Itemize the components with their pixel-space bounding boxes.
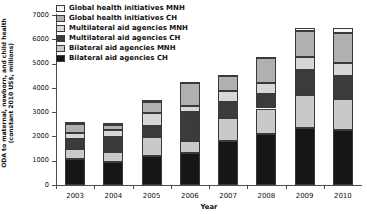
y-axis-title-line-2: (constant 2010 US$, millions) <box>7 0 14 186</box>
legend-label: Global health initiatives CH <box>69 14 177 22</box>
bar-segment[interactable] <box>65 122 85 124</box>
bar-segment[interactable] <box>180 112 200 140</box>
y-tick <box>52 88 56 89</box>
legend-swatch-icon <box>56 35 65 42</box>
bar-segment[interactable] <box>142 100 162 102</box>
x-tick <box>171 185 172 189</box>
bar-segment[interactable] <box>103 137 123 153</box>
x-tick-label: 2007 <box>208 192 248 200</box>
x-tick-label: 2004 <box>93 192 133 200</box>
bar-segment[interactable] <box>218 141 238 185</box>
legend-swatch-icon <box>56 45 65 52</box>
bar-segment[interactable] <box>218 102 238 118</box>
legend-label: Multilateral aid agencies CH <box>69 34 180 42</box>
x-tick-label: 2008 <box>246 192 286 200</box>
bar-segment[interactable] <box>65 124 85 132</box>
y-tick-label: 5000 <box>19 60 49 67</box>
bar-segment[interactable] <box>103 162 123 185</box>
bar-segment[interactable] <box>142 137 162 155</box>
bar-segment[interactable] <box>180 83 200 106</box>
legend-item[interactable]: Global health initiatives MNH <box>56 3 188 13</box>
y-tick <box>52 161 56 162</box>
legend-swatch-icon <box>56 25 65 32</box>
bar-segment[interactable] <box>103 130 123 136</box>
x-tick <box>324 185 325 189</box>
bar-2009[interactable] <box>295 15 315 185</box>
x-tick <box>94 185 95 189</box>
legend-item[interactable]: Global health initiatives CH <box>56 13 188 23</box>
legend-label: Bilateral aid agencies MNH <box>69 44 176 52</box>
bar-segment[interactable] <box>256 57 276 59</box>
bar-segment[interactable] <box>142 113 162 126</box>
legend-label: Multilateral aid agencies MNH <box>69 24 188 32</box>
legend-swatch-icon <box>56 55 65 62</box>
y-tick-label: 4000 <box>19 85 49 92</box>
legend-label: Bilateral aid agencies CH <box>69 54 168 62</box>
bar-segment[interactable] <box>65 133 85 140</box>
y-tick-label: 2000 <box>19 133 49 140</box>
bar-segment[interactable] <box>295 28 315 32</box>
bar-segment[interactable] <box>256 94 276 108</box>
y-tick-label: 6000 <box>19 36 49 43</box>
legend-item[interactable]: Multilateral aid agencies MNH <box>56 23 188 33</box>
bar-segment[interactable] <box>295 128 315 185</box>
y-tick <box>52 136 56 137</box>
x-tick <box>133 185 134 189</box>
bar-segment[interactable] <box>142 156 162 185</box>
bar-segment[interactable] <box>180 82 200 84</box>
y-tick-label: 3000 <box>19 109 49 116</box>
bar-2008[interactable] <box>256 15 276 185</box>
bar-segment[interactable] <box>65 139 85 148</box>
bar-segment[interactable] <box>65 149 85 159</box>
bar-segment[interactable] <box>256 134 276 185</box>
bar-segment[interactable] <box>295 70 315 95</box>
x-tick <box>56 185 57 189</box>
bar-segment[interactable] <box>65 159 85 185</box>
bar-2010[interactable] <box>333 15 353 185</box>
bar-segment[interactable] <box>333 130 353 185</box>
bar-segment[interactable] <box>256 83 276 94</box>
bar-segment[interactable] <box>218 76 238 91</box>
y-tick-label: 0 <box>19 182 49 189</box>
bar-segment[interactable] <box>333 33 353 63</box>
x-tick <box>247 185 248 189</box>
legend-swatch-icon <box>56 15 65 22</box>
bar-segment[interactable] <box>103 123 123 125</box>
bar-segment[interactable] <box>218 118 238 141</box>
legend-item[interactable]: Bilateral aid agencies CH <box>56 53 188 63</box>
bar-segment[interactable] <box>218 75 238 77</box>
legend-swatch-icon <box>56 5 65 12</box>
bar-segment[interactable] <box>295 31 315 57</box>
bar-2007[interactable] <box>218 15 238 185</box>
x-tick-label: 2006 <box>170 192 210 200</box>
y-axis-title-line-1: ODA to maternal, newborn, and child heal… <box>0 0 7 186</box>
bar-segment[interactable] <box>333 76 353 99</box>
bar-segment[interactable] <box>256 109 276 134</box>
y-tick-label: 7000 <box>19 12 49 19</box>
bar-segment[interactable] <box>295 57 315 69</box>
bar-segment[interactable] <box>295 95 315 128</box>
y-tick-label: 1000 <box>19 157 49 164</box>
bar-segment[interactable] <box>142 102 162 113</box>
bar-segment[interactable] <box>180 141 200 153</box>
x-tick <box>286 185 287 189</box>
bar-segment[interactable] <box>180 153 200 185</box>
x-axis-title: Year <box>56 203 362 211</box>
y-tick <box>52 64 56 65</box>
bar-segment[interactable] <box>180 106 200 112</box>
bar-segment[interactable] <box>142 126 162 138</box>
bar-segment[interactable] <box>333 99 353 130</box>
legend-item[interactable]: Bilateral aid agencies MNH <box>56 43 188 53</box>
bar-segment[interactable] <box>103 125 123 131</box>
x-tick <box>209 185 210 189</box>
x-tick-label: 2005 <box>132 192 172 200</box>
legend-label: Global health initiatives MNH <box>69 4 185 12</box>
bar-segment[interactable] <box>103 152 123 161</box>
legend-item[interactable]: Multilateral aid agencies CH <box>56 33 188 43</box>
bar-segment[interactable] <box>333 28 353 33</box>
bar-segment[interactable] <box>218 91 238 102</box>
x-tick-label: 2003 <box>55 192 95 200</box>
bar-segment[interactable] <box>256 58 276 83</box>
stacked-bar-chart: ODA to maternal, newborn, and child heal… <box>0 0 367 214</box>
bar-segment[interactable] <box>333 63 353 76</box>
